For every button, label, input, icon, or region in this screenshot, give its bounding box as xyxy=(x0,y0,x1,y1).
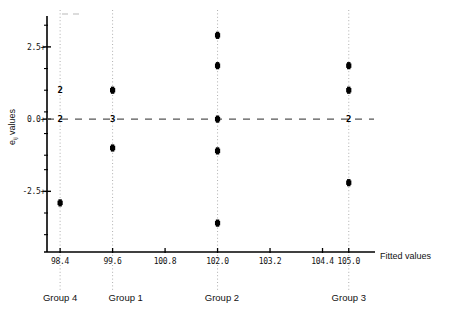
y-axis-title: eij values xyxy=(6,92,20,162)
x-tick-label: 98.4 xyxy=(51,257,69,266)
y-axis-title-sub: ij xyxy=(12,137,18,140)
data-point-count-label: 2 xyxy=(57,85,62,95)
x-axis-title: Fitted values xyxy=(380,251,431,261)
y-tick-label: -2.5+ xyxy=(22,187,45,196)
data-point xyxy=(110,88,115,92)
x-tick-label: 103.2 xyxy=(259,257,282,266)
data-point-count-label: 2 xyxy=(346,114,351,124)
data-point xyxy=(215,221,220,225)
x-tick-label: 102.0 xyxy=(206,257,229,266)
group-label-group-3: Group 3 xyxy=(332,292,366,303)
chart-canvas xyxy=(0,0,457,320)
x-tick-label: 104.4 xyxy=(311,257,334,266)
plot-area: eij values Fitted values xyxy=(0,0,457,320)
x-tick-label: 99.6 xyxy=(104,257,122,266)
group-label-group-2: Group 2 xyxy=(205,292,239,303)
residual-plot-page: eij values Fitted values 223298.499.6100… xyxy=(0,0,457,320)
data-point-count-label: 3 xyxy=(110,114,115,124)
data-point xyxy=(215,149,220,153)
data-point-count-label: 2 xyxy=(57,114,62,124)
group-label-group-1: Group 1 xyxy=(109,292,143,303)
y-axis-title-main: e xyxy=(7,140,17,145)
data-point xyxy=(346,88,351,92)
data-point xyxy=(215,33,220,37)
y-tick-label: 0.0+ xyxy=(27,115,45,124)
data-point xyxy=(215,117,220,121)
data-point xyxy=(58,201,63,205)
data-point xyxy=(346,63,351,67)
y-tick-label: 2.5+ xyxy=(27,42,45,51)
x-tick-label: 100.8 xyxy=(154,257,177,266)
data-point xyxy=(215,63,220,67)
x-tick-label: 105.0 xyxy=(337,257,360,266)
data-point xyxy=(346,180,351,184)
y-axis-title-suffix: values xyxy=(7,109,17,138)
group-label-group-4: Group 4 xyxy=(43,292,77,303)
data-point xyxy=(110,146,115,150)
